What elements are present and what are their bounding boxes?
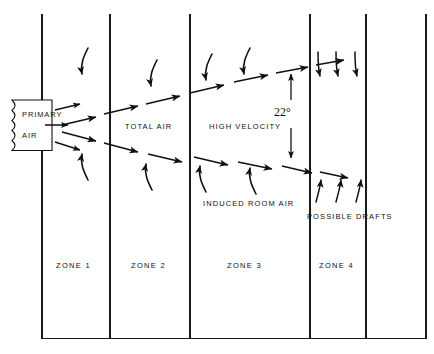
zone-1-label: ZONE 1	[56, 261, 91, 270]
primary-air-label-line1: PRIMARY	[22, 110, 62, 119]
cone-lower-dash-6	[282, 166, 312, 173]
zone-3-label: ZONE 3	[227, 261, 262, 270]
possible-drafts-label: POSSIBLE DRAFTS	[307, 212, 393, 221]
induced-air-hook-top-4	[243, 48, 250, 74]
cone-lower-dash-3	[148, 154, 182, 162]
cone-upper-dash-1	[62, 117, 96, 125]
induced-room-air-label: INDUCED ROOM AIR	[203, 199, 294, 208]
cone-lower-boundary	[62, 132, 348, 178]
angle-22-degrees-label: 22°	[274, 105, 291, 120]
diagram-canvas	[0, 0, 434, 354]
induced-air-hook-bottom-3	[199, 166, 206, 192]
cone-upper-dash-3	[146, 96, 180, 104]
zone-4-label: ZONE 4	[319, 261, 354, 270]
zone-2-label: ZONE 2	[131, 261, 166, 270]
zone4-draft-up-3	[356, 180, 361, 202]
cone-upper-dash-5	[234, 75, 268, 82]
cone-lower-dash-7	[320, 172, 348, 178]
cone-upper-boundary	[62, 60, 344, 125]
primary-air-label-line2: AIR	[22, 131, 37, 140]
zone4-draft-down-2	[336, 52, 338, 76]
total-air-label: TOTAL AIR	[125, 122, 172, 131]
cone-upper-dash-2	[104, 106, 138, 114]
zone4-draft-up-1	[316, 180, 321, 202]
induced-air-hook-top-2	[150, 60, 157, 86]
induced-air-hook-top-1	[81, 48, 88, 74]
induced-air-hooks-bottom	[81, 154, 256, 194]
induced-air-hook-bottom-2	[145, 164, 152, 190]
zone4-draft-arrows-bottom	[316, 180, 361, 202]
induced-air-hook-top-3	[205, 54, 212, 80]
cone-lower-dash-5	[238, 162, 272, 169]
high-velocity-label: HIGH VELOCITY	[209, 122, 281, 131]
cone-lower-dash-1	[62, 132, 96, 141]
induced-air-hooks-top	[81, 48, 250, 86]
cone-upper-dash-6	[276, 67, 308, 73]
cone-lower-dash-4	[194, 157, 228, 165]
induced-air-hook-bottom-1	[81, 154, 88, 180]
air-diffusion-diagram: PRIMARY AIR TOTAL AIR HIGH VELOCITY INDU…	[0, 0, 434, 354]
cone-upper-dash-4	[190, 85, 224, 93]
outlet-arrow-lower	[55, 142, 80, 150]
cone-lower-dash-2	[104, 143, 138, 152]
zone-divider-lines	[42, 14, 426, 339]
induced-air-hook-bottom-4	[249, 168, 256, 194]
cone-upper-dash-7	[316, 60, 344, 65]
zone4-draft-up-2	[336, 180, 341, 202]
zone4-draft-down-3	[355, 52, 357, 76]
